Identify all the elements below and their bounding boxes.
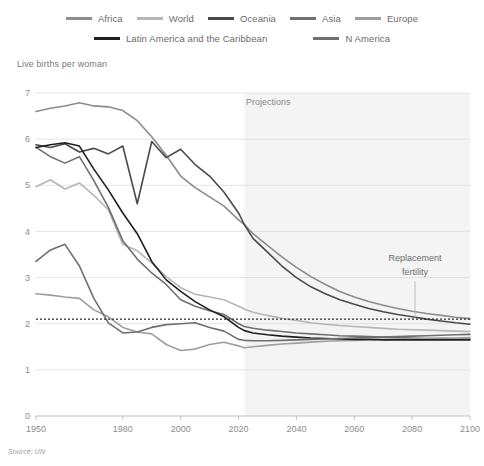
projections-label: Projections xyxy=(246,97,291,107)
x-tick-label-1950: 1950 xyxy=(26,424,46,434)
y-tick-label-3: 3 xyxy=(25,273,30,283)
chart-page: Africa World Oceania Asia Europe La xyxy=(0,0,484,466)
line-chart-svg: 0123456719501980200020202040206020802100… xyxy=(0,0,484,466)
x-tick-label-2100: 2100 xyxy=(460,424,480,434)
replacement-fertility-label-line2: fertility xyxy=(402,267,429,277)
x-tick-label-2040: 2040 xyxy=(286,424,306,434)
x-tick-label-2020: 2020 xyxy=(229,424,249,434)
y-tick-label-0: 0 xyxy=(25,411,30,421)
replacement-fertility-label-line1: Replacement xyxy=(389,253,443,263)
x-tick-label-1980: 1980 xyxy=(113,424,133,434)
source-note: Source: UN xyxy=(8,448,45,455)
y-tick-label-7: 7 xyxy=(25,88,30,98)
x-tick-label-2060: 2060 xyxy=(344,424,364,434)
y-tick-label-2: 2 xyxy=(25,319,30,329)
x-tick-label-2080: 2080 xyxy=(402,424,422,434)
x-tick-label-2000: 2000 xyxy=(171,424,191,434)
y-tick-label-1: 1 xyxy=(25,365,30,375)
y-tick-label-5: 5 xyxy=(25,180,30,190)
y-tick-label-6: 6 xyxy=(25,134,30,144)
plot-area: 0123456719501980200020202040206020802100… xyxy=(0,0,484,466)
y-tick-label-4: 4 xyxy=(25,227,30,237)
